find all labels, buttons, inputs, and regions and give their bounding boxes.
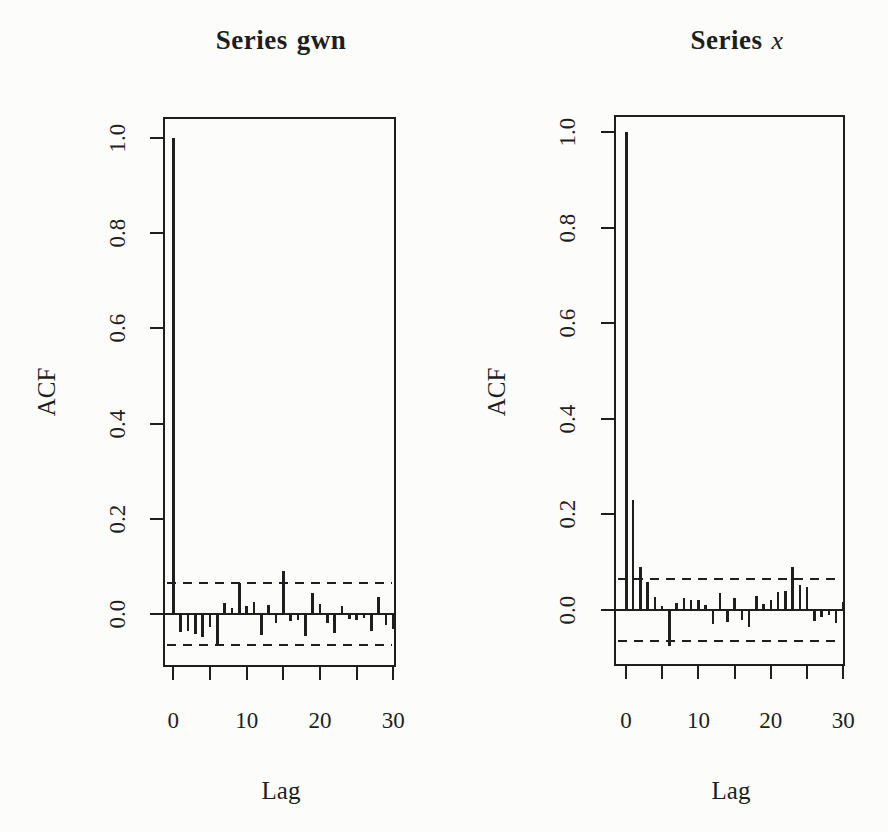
x-tick-10 (697, 666, 699, 679)
bar-lag-28 (828, 610, 831, 615)
bar-lag-1 (179, 614, 182, 632)
x-tick-20 (319, 667, 321, 680)
bar-lag-26 (363, 614, 366, 618)
bar-lag-24 (799, 585, 802, 610)
y-tick-label-0.2: 0.2 (107, 487, 129, 551)
bar-lag-8 (231, 608, 234, 614)
bar-lag-7 (223, 603, 226, 614)
bar-lag-7 (675, 603, 678, 610)
bar-lag-16 (289, 614, 292, 621)
scanned-acf-figure: Seriesgwn ACF Lag 0.00.20.40.60.81.00102… (0, 0, 888, 832)
y-tick-label-0.2: 0.2 (557, 482, 579, 546)
bar-lag-6 (668, 610, 671, 646)
bar-lag-12 (260, 614, 263, 635)
y-tick-0.6 (601, 322, 614, 324)
y-tick-0.2 (150, 518, 163, 520)
bar-lag-2 (639, 567, 642, 610)
y-tick-0.2 (601, 513, 614, 515)
upper-confidence-band (167, 582, 392, 584)
y-tick-0.4 (150, 423, 163, 425)
plot-title-prefix: Series (216, 25, 288, 55)
bar-lag-0 (172, 138, 175, 614)
x-tick-label-10: 10 (676, 707, 720, 735)
x-tick-label-30: 30 (371, 707, 415, 735)
bar-lag-19 (311, 593, 314, 614)
x-tick-20 (770, 666, 772, 679)
x-tick-label-20: 20 (749, 707, 793, 735)
bar-lag-30 (392, 614, 395, 629)
y-tick-label-0.0: 0.0 (557, 578, 579, 642)
bar-lag-13 (267, 605, 270, 614)
y-tick-0.8 (601, 227, 614, 229)
y-tick-label-0.6: 0.6 (557, 291, 579, 355)
y-axis-label-acf: ACF (33, 368, 61, 417)
bar-lag-0 (625, 132, 628, 610)
bar-lag-12 (712, 610, 715, 624)
x-tick-15 (734, 666, 736, 679)
plot-frame (614, 115, 845, 666)
plot-title-series: x (771, 26, 783, 55)
y-tick-label-0.0: 0.0 (107, 582, 129, 646)
y-tick-label-1.0: 1.0 (107, 106, 129, 170)
y-tick-label-0.6: 0.6 (107, 296, 129, 360)
y-axis-label-acf: ACF (483, 368, 511, 417)
y-tick-0.0 (150, 613, 163, 615)
x-tick-0 (172, 667, 174, 680)
bar-lag-18 (304, 614, 307, 636)
upper-confidence-band (618, 578, 841, 580)
y-tick-label-0.8: 0.8 (557, 196, 579, 260)
bar-lag-14 (726, 610, 729, 622)
plot-title-x: Seriesx (690, 25, 783, 56)
bar-lag-19 (762, 604, 765, 610)
bar-lag-25 (355, 614, 358, 620)
y-tick-label-0.4: 0.4 (557, 387, 579, 451)
bar-lag-23 (341, 606, 344, 614)
bar-lag-3 (194, 614, 197, 634)
bar-lag-22 (784, 591, 787, 610)
x-tick-10 (246, 667, 248, 680)
bar-lag-23 (791, 567, 794, 610)
x-tick-30 (842, 666, 844, 679)
bar-lag-29 (385, 614, 388, 625)
lower-confidence-band (167, 644, 392, 646)
bar-lag-24 (348, 614, 351, 619)
bar-lag-10 (245, 606, 248, 614)
y-tick-0.0 (601, 609, 614, 611)
bar-lag-16 (741, 610, 744, 620)
bar-lag-30 (842, 602, 845, 610)
bar-lag-8 (683, 598, 686, 610)
bar-lag-3 (646, 582, 649, 610)
acf-plot-gwn: Seriesgwn ACF Lag 0.00.20.40.60.81.00102… (0, 0, 888, 832)
plot-title-series: gwn (297, 25, 347, 55)
bar-lag-2 (187, 614, 190, 631)
x-tick-0 (625, 666, 627, 679)
acf-plot-x: Seriesx ACF Lag 0.00.20.40.60.81.0010203… (0, 0, 888, 832)
bar-lag-15 (282, 571, 285, 614)
x-axis-label-lag: Lag (262, 777, 301, 805)
bar-lag-17 (748, 610, 751, 627)
lower-confidence-band (618, 640, 841, 642)
x-tick-label-30: 30 (821, 707, 865, 735)
bar-lag-15 (733, 598, 736, 610)
x-tick-25 (356, 667, 358, 680)
x-tick-25 (806, 666, 808, 679)
y-tick-1.0 (601, 131, 614, 133)
zero-line (165, 613, 394, 615)
bar-lag-26 (813, 610, 816, 621)
bar-lag-25 (806, 587, 809, 610)
x-tick-5 (209, 667, 211, 680)
bar-lag-5 (661, 606, 664, 610)
bar-lag-1 (632, 500, 635, 610)
bar-lag-13 (719, 593, 722, 610)
x-tick-label-0: 0 (151, 707, 195, 735)
x-tick-label-20: 20 (298, 707, 342, 735)
x-tick-label-10: 10 (225, 707, 269, 735)
bar-lag-21 (326, 614, 329, 623)
bar-lag-4 (201, 614, 204, 637)
bar-lag-11 (253, 602, 256, 614)
bar-lag-20 (319, 604, 322, 614)
x-axis-label-lag: Lag (712, 777, 751, 805)
x-tick-15 (282, 667, 284, 680)
bar-lag-9 (238, 583, 241, 614)
bar-lag-29 (835, 610, 838, 623)
